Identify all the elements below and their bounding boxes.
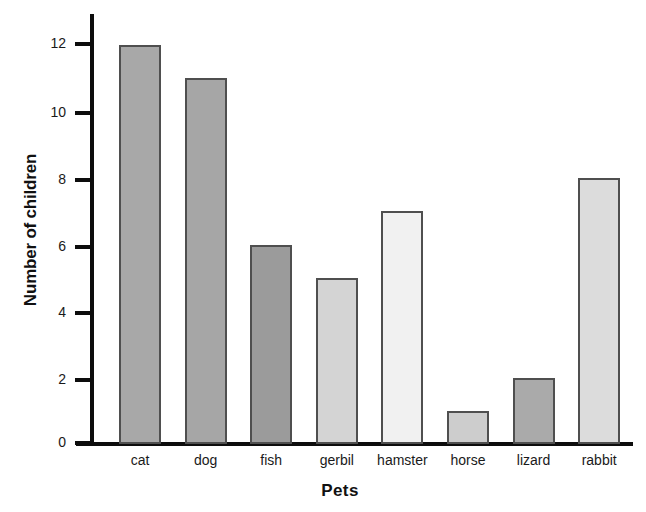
y-tick-4: [75, 311, 93, 315]
y-tick-12: [75, 42, 93, 46]
y-tick-label-6: 6: [24, 238, 66, 254]
plot-area: [94, 14, 633, 444]
y-tick-label-12: 12: [24, 35, 66, 51]
bar-fish: [250, 245, 292, 445]
bar-horse: [447, 411, 489, 444]
y-tick-6: [75, 245, 93, 249]
y-tick-label-10: 10: [24, 104, 66, 120]
bar-hamster: [381, 211, 423, 444]
x-tick-label-rabbit: rabbit: [549, 452, 646, 468]
y-tick-0: [75, 441, 93, 445]
x-axis-title: Pets: [0, 481, 646, 501]
bar-dog: [185, 78, 227, 444]
bar-cat: [119, 45, 161, 444]
bar-gerbil: [316, 278, 358, 444]
y-tick-label-4: 4: [24, 304, 66, 320]
y-tick-label-2: 2: [24, 371, 66, 387]
y-tick-label-8: 8: [24, 171, 66, 187]
y-tick-10: [75, 111, 93, 115]
y-tick-8: [75, 178, 93, 182]
bar-lizard: [513, 378, 555, 445]
bar-chart: Number of children 0 2 4 6 8 10 12 cat d…: [0, 0, 646, 512]
bar-rabbit: [578, 178, 620, 444]
y-tick-label-0: 0: [24, 434, 66, 450]
y-tick-2: [75, 378, 93, 382]
